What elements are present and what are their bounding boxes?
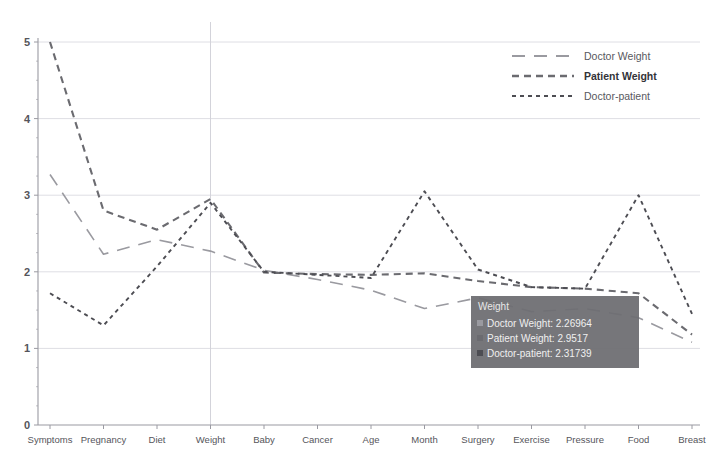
y-tick-label: 0	[24, 419, 30, 431]
tooltip-marker	[477, 320, 483, 326]
x-tick-label-weight: Weight	[196, 434, 226, 445]
x-axis-tick-labels: SymptomsPregnancyDietWeightBabyCancerAge…	[28, 434, 707, 445]
tooltip-marker	[477, 350, 483, 356]
y-tick-label: 3	[24, 189, 30, 201]
x-tick-label-symptoms: Symptoms	[28, 434, 73, 445]
y-tick-label: 5	[24, 36, 30, 48]
x-tick-label-surgery: Surgery	[461, 434, 495, 445]
x-tick-label-diet: Diet	[149, 434, 166, 445]
x-axis	[38, 425, 700, 429]
y-tick-label: 2	[24, 266, 30, 278]
legend-label-patient-weight[interactable]: Patient Weight	[584, 70, 657, 82]
line-chart[interactable]: 012345 SymptomsPregnancyDietWeightBabyCa…	[0, 0, 708, 462]
x-tick-label-pregnancy: Pregnancy	[81, 434, 127, 445]
x-tick-label-baby: Baby	[253, 434, 275, 445]
chart-container: 012345 SymptomsPregnancyDietWeightBabyCa…	[0, 0, 708, 462]
hover-tooltip: WeightDoctor Weight: 2.26964Patient Weig…	[471, 296, 639, 368]
x-tick-label-pressure: Pressure	[566, 434, 604, 445]
tooltip-row-patient-weight: Patient Weight: 2.9517	[487, 333, 588, 344]
x-tick-label-food: Food	[628, 434, 650, 445]
tooltip-marker	[477, 335, 483, 341]
tooltip-row-doctor-weight: Doctor Weight: 2.26964	[487, 318, 592, 329]
y-axis-tick-labels: 012345	[24, 36, 31, 431]
x-tick-label-month: Month	[411, 434, 437, 445]
y-axis	[34, 38, 38, 425]
tooltip-title: Weight	[478, 301, 509, 312]
x-tick-label-exercise: Exercise	[513, 434, 549, 445]
x-tick-label-breast: Breast	[678, 434, 706, 445]
x-tick-label-age: Age	[363, 434, 380, 445]
x-tick-label-cancer: Cancer	[302, 434, 333, 445]
series-line-patient-weight[interactable]	[50, 42, 692, 335]
legend-label-doctor-weight[interactable]: Doctor Weight	[584, 50, 650, 62]
chart-legend[interactable]: Doctor WeightPatient WeightDoctor-patien…	[512, 50, 657, 102]
y-tick-label: 4	[24, 113, 31, 125]
legend-label-doctor-patient[interactable]: Doctor-patient	[584, 90, 650, 102]
tooltip-row-doctor-patient: Doctor-patient: 2.31739	[487, 348, 592, 359]
y-tick-label: 1	[24, 342, 30, 354]
